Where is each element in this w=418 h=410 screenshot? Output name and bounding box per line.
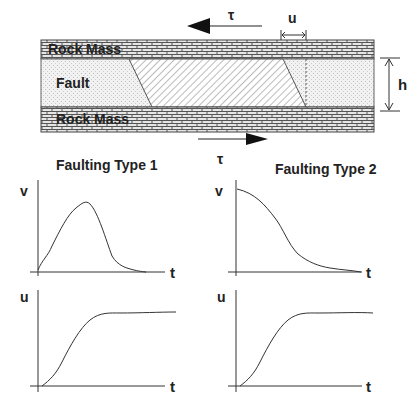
shear-arrow-bottom <box>198 133 268 145</box>
type1-t-label-u: t <box>170 378 175 395</box>
type1-u-label: u <box>20 289 29 305</box>
fault-diagram-figure: τ u Rock Mass Fault Rock Mass h τ Faulti… <box>0 0 418 410</box>
type1-title: Faulting Type 1 <box>56 157 158 173</box>
top-rock-label: Rock Mass <box>48 41 121 57</box>
chart-type2-displacement <box>228 290 373 392</box>
shear-top-label: τ <box>228 7 235 23</box>
slip-dimension <box>281 30 306 40</box>
slip-label: u <box>288 10 297 26</box>
chart-type1-displacement <box>30 290 176 392</box>
type1-v-label: v <box>20 183 28 199</box>
fault-label: Fault <box>56 75 90 91</box>
type2-t-label-v: t <box>366 264 371 281</box>
thickness-dimension <box>380 58 400 111</box>
type2-title: Faulting Type 2 <box>275 161 377 177</box>
chart-type2-velocity <box>228 180 362 276</box>
shear-bottom-label: τ <box>217 151 224 167</box>
type2-t-label-u: t <box>366 378 371 395</box>
sheared-block <box>129 59 306 107</box>
shear-arrow-top <box>187 18 262 34</box>
type2-u-label: u <box>217 289 226 305</box>
type1-t-label-v: t <box>170 264 175 281</box>
thickness-label: h <box>398 76 407 93</box>
chart-type1-velocity <box>30 180 165 276</box>
bottom-rock-label: Rock Mass <box>56 111 129 127</box>
type2-v-label: v <box>215 183 223 199</box>
